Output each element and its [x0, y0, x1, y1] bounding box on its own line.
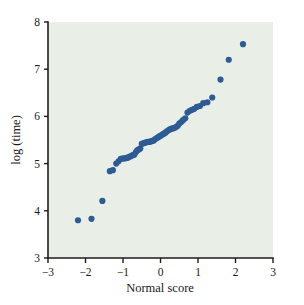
- data-point: [99, 198, 105, 204]
- x-tick-label: −2: [79, 266, 91, 278]
- data-point: [226, 57, 232, 63]
- y-tick-label: 3: [34, 252, 40, 264]
- x-tick-label: 3: [270, 266, 276, 278]
- data-point: [182, 115, 188, 121]
- data-point: [88, 216, 94, 222]
- data-point: [240, 41, 246, 47]
- plot-area-background: [48, 22, 273, 258]
- x-tick-label: 1: [195, 266, 201, 278]
- data-point: [110, 167, 116, 173]
- scatter-plot-canvas: 345678 −3−2−10123 Normal score log (time…: [0, 0, 304, 305]
- y-tick-label: 4: [34, 205, 40, 217]
- y-tick-label: 5: [34, 158, 40, 170]
- data-point: [209, 94, 215, 100]
- x-tick-label: −3: [42, 266, 54, 278]
- y-tick-label: 6: [34, 110, 40, 122]
- y-tick-label: 7: [34, 63, 40, 75]
- data-point: [204, 99, 210, 105]
- data-point: [217, 76, 223, 82]
- x-axis-ticks: −3−2−10123: [42, 258, 276, 278]
- y-tick-label: 8: [34, 16, 40, 28]
- x-axis-title: Normal score: [126, 281, 194, 295]
- qq-plot-figure: 345678 −3−2−10123 Normal score log (time…: [0, 0, 304, 305]
- data-point: [75, 217, 81, 223]
- x-tick-label: −1: [117, 266, 129, 278]
- x-tick-label: 0: [158, 266, 164, 278]
- y-axis-ticks: 345678: [34, 16, 48, 264]
- x-tick-label: 2: [233, 266, 239, 278]
- y-axis-title: log (time): [9, 115, 23, 165]
